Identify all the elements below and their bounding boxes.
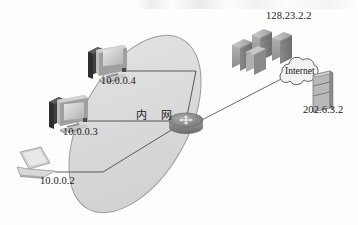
internet-cloud-label: Internet bbox=[285, 66, 315, 76]
ip-label-server-rack: 128.23.2.2 bbox=[266, 10, 312, 21]
zone-label-right: 网 bbox=[161, 106, 172, 122]
router-internet-link bbox=[196, 76, 287, 123]
ip-label-server-small: 202.6.3.2 bbox=[303, 104, 343, 115]
router-icon bbox=[169, 113, 203, 134]
ip-label-workstation-top: 10.0.0.4 bbox=[101, 75, 136, 86]
network-diagram-canvas: 10.0.0.4 10.0.0.3 10.0.0.2 128.23.2.2 20… bbox=[0, 0, 358, 225]
zone-label-left: 内 bbox=[136, 106, 147, 122]
ip-label-laptop: 10.0.0.2 bbox=[40, 175, 75, 186]
ip-label-workstation-mid: 10.0.0.3 bbox=[63, 126, 98, 137]
